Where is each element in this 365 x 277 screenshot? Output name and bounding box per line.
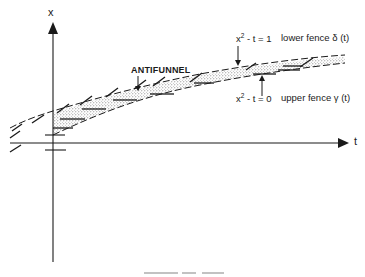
lower-fence-equation: x2 - t = 1	[236, 33, 272, 44]
upper-fence-equation: x2 - t = 0	[236, 93, 272, 104]
lower-fence-description: lower fence δ (t)	[281, 33, 349, 43]
upper-fence-eq-rest: - t = 0	[244, 93, 271, 104]
t-axis-label: t	[354, 136, 357, 147]
t-axis	[10, 138, 349, 148]
x-axis	[48, 22, 58, 262]
upper-fence-arrow-icon	[259, 75, 265, 81]
left-slope-mark	[10, 145, 21, 152]
lower-fence-arrow-icon	[235, 60, 241, 66]
lower-fence-eq-rest: - t = 1	[244, 33, 271, 44]
x-axis-arrow-icon	[48, 22, 58, 34]
x-axis-label: x	[48, 7, 54, 18]
lower-fence-pointer	[235, 46, 241, 66]
upper-fence-description: upper fence γ (t)	[281, 93, 350, 103]
t-axis-arrow-icon	[338, 138, 349, 148]
figure-caption-cropped	[142, 272, 232, 277]
antifunnel-label: ANTIFUNNEL	[131, 66, 191, 75]
